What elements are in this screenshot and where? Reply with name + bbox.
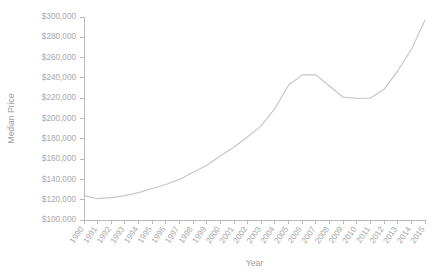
y-tick-label: $160,000 bbox=[42, 154, 77, 163]
y-tick-label: $240,000 bbox=[42, 73, 77, 82]
y-axis-tick-marks bbox=[80, 17, 84, 220]
y-tick-label: $120,000 bbox=[42, 195, 77, 204]
y-tick-label: $200,000 bbox=[42, 114, 77, 123]
x-tick-label: 2015 bbox=[409, 225, 427, 245]
median-price-line-chart: $300,000$280,000$260,000$240,000$220,000… bbox=[0, 0, 442, 273]
chart-canvas: $300,000$280,000$260,000$240,000$220,000… bbox=[0, 0, 442, 273]
y-tick-label: $280,000 bbox=[42, 32, 77, 41]
x-axis-title: Year bbox=[246, 258, 264, 268]
y-tick-label: $180,000 bbox=[42, 134, 77, 143]
y-tick-label: $300,000 bbox=[42, 12, 77, 21]
y-tick-label: $220,000 bbox=[42, 93, 77, 102]
y-axis-tick-labels: $300,000$280,000$260,000$240,000$220,000… bbox=[42, 12, 77, 224]
x-axis-tick-labels: 1990199119921993199419951996199719981999… bbox=[68, 225, 427, 245]
y-axis-title: Median Price bbox=[6, 93, 16, 143]
y-tick-label: $140,000 bbox=[42, 175, 77, 184]
median-price-series-line bbox=[84, 20, 425, 199]
y-tick-label: $260,000 bbox=[42, 53, 77, 62]
y-tick-label: $100,000 bbox=[42, 215, 77, 224]
x-axis-tick-marks bbox=[84, 220, 425, 224]
x-tick-label: 2010 bbox=[341, 225, 359, 245]
